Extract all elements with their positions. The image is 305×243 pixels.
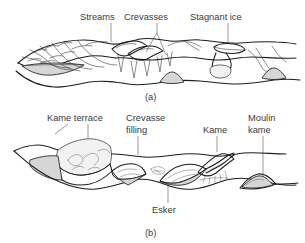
small-mound-mark [151,167,165,175]
label-streams: Streams [80,12,115,22]
label-crevasse-line1: Crevasse [126,113,165,123]
panel-b: Kame terrace Crevasse filling Kame Mouli… [14,113,298,238]
label-kame-terrace: Kame terrace [47,113,103,123]
crevasse-filling [112,164,146,185]
moulin-kame [240,174,276,189]
panel-a: Streams Crevasses Stagnant ice [16,12,300,102]
label-stagnant-ice: Stagnant ice [190,12,242,22]
label-crevasses: Crevasses [124,12,168,22]
esker-ridge [160,164,206,185]
label-esker: Esker [152,205,176,215]
stagnant-ice-features [210,44,286,80]
figure-canvas: Streams Crevasses Stagnant ice [0,0,305,243]
caption-b: (b) [145,228,156,238]
ice-midline [116,57,296,60]
buried-deposit-a [160,72,184,84]
label-moulin-line1: Moulin [248,113,275,123]
back-surface-right [104,153,286,157]
glacial-landforms-figure: Streams Crevasses Stagnant ice [0,0,305,243]
crevasse-fill-shadow [112,171,146,185]
leader-kame-terrace-diag [55,124,68,134]
caption-a: (a) [145,92,156,102]
small-mound-hachure [153,169,162,173]
label-kame: Kame [203,125,227,135]
label-kame-line2: kame [248,125,271,135]
label-filling-line2: filling [126,125,147,135]
back-surface-left [14,145,58,151]
moulin-kame-fill [242,176,273,188]
distal-surface-b [276,183,298,184]
